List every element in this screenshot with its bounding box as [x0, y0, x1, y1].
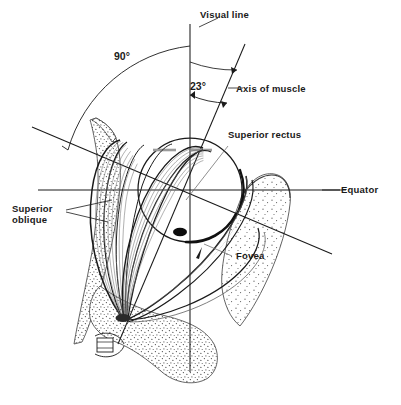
label-superior-oblique: Superior oblique	[12, 203, 53, 225]
ninety-degree-arc-tick	[62, 146, 68, 150]
fovea-marker	[173, 228, 187, 236]
muscle-origin-knot	[116, 314, 131, 322]
twentythree-arrow-left	[190, 91, 195, 99]
upper-arc-to-muscle-axis	[190, 62, 237, 70]
label-equator: Equator	[341, 184, 378, 195]
label-visual-line: Visual line	[200, 9, 249, 20]
label-fovea: Fovea	[236, 250, 264, 261]
twentythree-arrow-right	[221, 101, 227, 108]
label-axis-of-muscle: Axis of muscle	[236, 83, 306, 94]
label-superior-rectus: Superior rectus	[228, 129, 301, 140]
superior-rectus-leader	[186, 146, 228, 200]
diagram-canvas	[0, 0, 401, 405]
insertion-arrowhead	[196, 247, 202, 259]
upper-arc-arrowhead	[231, 67, 237, 74]
label-90-degrees: 90°	[114, 50, 130, 62]
eye-muscle-diagram: Visual line 90° 23° Axis of muscle Super…	[0, 0, 401, 405]
label-23-degrees: 23°	[190, 80, 206, 92]
